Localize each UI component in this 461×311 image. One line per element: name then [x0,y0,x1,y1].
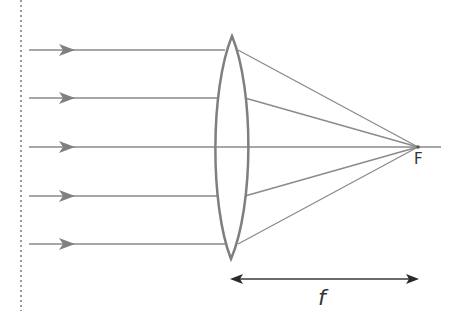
focal-point-label: F [414,150,423,168]
refracted-ray-1 [238,50,418,147]
focal-point-marker [416,145,420,149]
lens-diagram [0,0,461,311]
focal-length-label: f [318,285,326,310]
convex-lens [215,36,248,259]
focal-length-arrow [230,274,419,284]
refracted-ray-4 [245,147,418,196]
refracted-ray-5 [238,147,418,244]
refracted-ray-2 [245,98,418,147]
